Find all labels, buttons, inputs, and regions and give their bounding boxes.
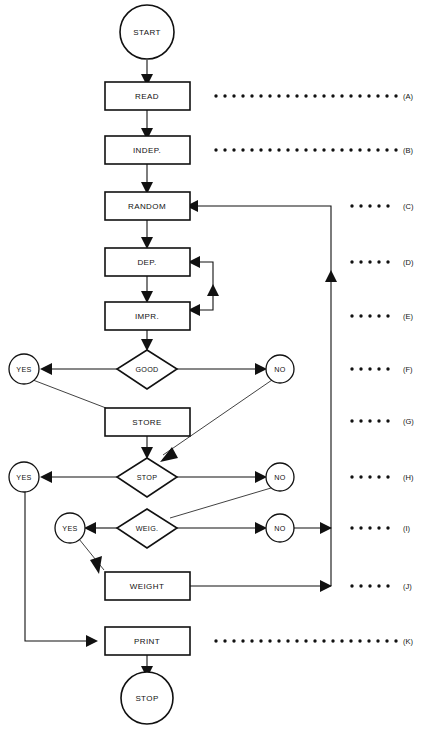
node-impr[interactable]: IMPR. xyxy=(105,302,190,330)
node-weig-yes[interactable]: YES xyxy=(55,513,85,543)
print-label: PRINT xyxy=(134,637,160,646)
node-random[interactable]: RANDOM xyxy=(105,192,190,220)
reference-label-A: (A) xyxy=(403,92,414,101)
leader-dot xyxy=(359,260,362,263)
arrowhead-weight-bus xyxy=(320,580,332,592)
node-stop-yes[interactable]: YES xyxy=(9,462,39,492)
node-dep[interactable]: DEP. xyxy=(105,248,190,276)
node-good[interactable]: GOOD xyxy=(117,350,177,389)
reference-row-K: (K) xyxy=(214,637,413,646)
read-label: READ xyxy=(135,92,159,101)
leader-dot xyxy=(350,475,353,478)
leader-dot xyxy=(359,584,362,587)
stop-yes-label: YES xyxy=(16,473,31,482)
node-stop-decision[interactable]: STOP xyxy=(117,458,177,497)
impr-label: IMPR. xyxy=(135,312,159,321)
node-store[interactable]: STORE xyxy=(105,408,190,436)
reference-row-E: (E) xyxy=(350,312,413,321)
leader-dot xyxy=(214,94,217,97)
leader-dot xyxy=(223,94,226,97)
leader-dot xyxy=(350,367,353,370)
node-weight[interactable]: WEIGHT xyxy=(105,572,190,600)
node-good-no[interactable]: NO xyxy=(266,355,294,383)
leader-dot xyxy=(250,148,253,151)
arrowhead-weigno-bus xyxy=(320,522,332,534)
flowchart-page: START READ INDEP. RANDOM DEP. IMPR. xyxy=(0,0,423,729)
reference-label-F: (F) xyxy=(403,365,413,374)
leader-dot xyxy=(385,639,388,642)
stop-no-label: NO xyxy=(274,473,285,482)
reference-label-B: (B) xyxy=(403,146,414,155)
reference-row-A: (A) xyxy=(214,92,413,101)
leader-dot xyxy=(376,639,379,642)
leader-dot xyxy=(350,526,353,529)
reference-row-J: (J) xyxy=(350,582,412,591)
leader-dot xyxy=(377,260,380,263)
arrowhead-bus-up xyxy=(325,270,337,282)
node-stop-no[interactable]: NO xyxy=(266,463,294,491)
leader-dot xyxy=(286,639,289,642)
node-weig[interactable]: WEIG. xyxy=(117,509,177,548)
node-print[interactable]: PRINT xyxy=(105,627,190,655)
leader-dot xyxy=(359,367,362,370)
reference-row-I: (I) xyxy=(350,524,410,533)
leader-dot xyxy=(277,148,280,151)
edge-goodyes-to-store xyxy=(33,380,106,408)
leader-dot xyxy=(386,260,389,263)
edge-stopyes-to-print xyxy=(25,491,96,641)
edge-impr-dep-loop xyxy=(190,262,213,310)
leader-dot xyxy=(286,94,289,97)
leader-dot xyxy=(386,314,389,317)
reference-row-H: (H) xyxy=(350,473,414,482)
leader-dot xyxy=(377,204,380,207)
node-good-yes[interactable]: YES xyxy=(9,354,39,384)
leader-dot xyxy=(214,148,217,151)
leader-dot xyxy=(359,475,362,478)
leader-dot xyxy=(232,639,235,642)
arrowhead-weig-no xyxy=(255,522,267,534)
weig-no-label: NO xyxy=(274,524,285,533)
leader-dot xyxy=(268,148,271,151)
leader-dot xyxy=(340,639,343,642)
leader-dot xyxy=(350,584,353,587)
leader-dot xyxy=(368,204,371,207)
leader-dot xyxy=(359,204,362,207)
reference-label-D: (D) xyxy=(403,258,414,267)
leader-dot xyxy=(322,639,325,642)
leader-dot xyxy=(241,148,244,151)
reference-label-H: (H) xyxy=(403,473,414,482)
node-start[interactable]: START xyxy=(120,5,174,59)
node-stop-terminal[interactable]: STOP xyxy=(121,672,173,724)
leader-dot xyxy=(232,94,235,97)
leader-dot xyxy=(214,639,217,642)
reference-row-D: (D) xyxy=(350,258,414,267)
weig-yes-label: YES xyxy=(62,524,77,533)
node-indep[interactable]: INDEP. xyxy=(105,136,190,164)
indep-label: INDEP. xyxy=(133,146,161,155)
leader-dot xyxy=(368,367,371,370)
leader-dot xyxy=(241,639,244,642)
node-weig-no[interactable]: NO xyxy=(266,514,294,542)
leader-dot xyxy=(368,419,371,422)
leader-dot xyxy=(367,639,370,642)
leader-dot xyxy=(331,148,334,151)
weight-label: WEIGHT xyxy=(130,582,164,591)
leader-dot xyxy=(386,204,389,207)
reference-row-C: (C) xyxy=(350,202,414,211)
leader-dot xyxy=(295,639,298,642)
dep-label: DEP. xyxy=(137,258,156,267)
reference-label-I: (I) xyxy=(403,524,411,533)
reference-label-J: (J) xyxy=(403,582,412,591)
leader-dot xyxy=(386,584,389,587)
leader-dot xyxy=(304,148,307,151)
leader-dot xyxy=(394,639,397,642)
leader-dot xyxy=(358,148,361,151)
leader-dot xyxy=(350,204,353,207)
leader-dot xyxy=(250,639,253,642)
leader-dot xyxy=(367,148,370,151)
leader-dot xyxy=(259,639,262,642)
leader-dot xyxy=(349,148,352,151)
arrowhead-good-no xyxy=(255,363,267,375)
leader-dot xyxy=(277,639,280,642)
node-read[interactable]: READ xyxy=(105,82,190,110)
